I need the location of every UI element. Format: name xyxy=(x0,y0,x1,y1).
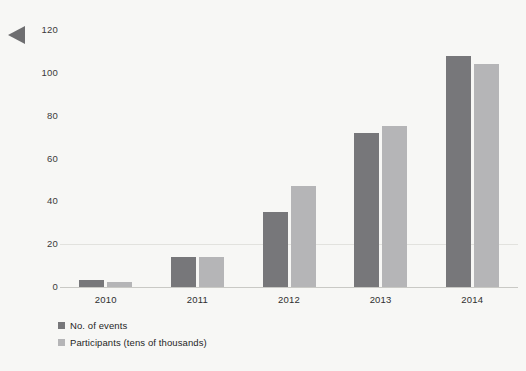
bar-2014-series-1[interactable] xyxy=(474,64,499,287)
y-axis-tick-label: 120 xyxy=(28,24,58,35)
y-axis-tick-label: 0 xyxy=(28,281,58,292)
legend-swatch-icon xyxy=(58,322,65,329)
bar-group-2012 xyxy=(263,20,316,287)
y-axis-tick-label: 20 xyxy=(28,238,58,249)
bar-2012-series-0[interactable] xyxy=(263,212,288,287)
bar-2011-series-0[interactable] xyxy=(171,257,196,287)
legend-item-0[interactable]: No. of events xyxy=(58,319,207,331)
bar-chart: 020406080100120 20102011201220132014 No.… xyxy=(0,0,526,371)
x-axis-tick-label: 2014 xyxy=(447,294,497,305)
triangle-left-icon[interactable] xyxy=(8,26,25,44)
bar-2014-series-0[interactable] xyxy=(446,56,471,287)
x-axis-tick-label: 2010 xyxy=(81,294,131,305)
bar-2010-series-0[interactable] xyxy=(79,280,104,287)
bar-group-2011 xyxy=(171,20,224,287)
bar-2010-series-1[interactable] xyxy=(107,282,132,287)
x-axis-tick-label: 2012 xyxy=(264,294,314,305)
x-axis-tick-label: 2013 xyxy=(356,294,406,305)
bar-group-2010 xyxy=(79,20,132,287)
legend-item-1[interactable]: Participants (tens of thousands) xyxy=(58,336,207,348)
x-axis-tick-label: 2011 xyxy=(172,294,222,305)
bar-group-2014 xyxy=(446,20,499,287)
bar-2013-series-1[interactable] xyxy=(382,126,407,287)
bar-group-2013 xyxy=(354,20,407,287)
chart-legend: No. of eventsParticipants (tens of thous… xyxy=(58,319,207,353)
plot-area xyxy=(60,20,518,287)
y-axis-tick-label: 60 xyxy=(28,153,58,164)
bar-2013-series-0[interactable] xyxy=(354,133,379,287)
y-axis-tick-label: 80 xyxy=(28,110,58,121)
bar-2011-series-1[interactable] xyxy=(199,257,224,287)
axis-baseline xyxy=(60,287,518,288)
legend-swatch-icon xyxy=(58,339,65,346)
bar-2012-series-1[interactable] xyxy=(291,186,316,287)
y-axis-tick-label: 40 xyxy=(28,195,58,206)
legend-label: Participants (tens of thousands) xyxy=(70,337,207,348)
y-axis-tick-label: 100 xyxy=(28,67,58,78)
legend-label: No. of events xyxy=(70,320,127,331)
